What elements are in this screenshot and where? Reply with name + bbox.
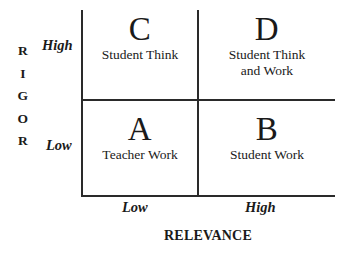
quadrant-a-letter: A — [128, 112, 152, 146]
rigor-relevance-framework-figure: R I G O R High Low C Student Think D Stu… — [0, 0, 350, 254]
quadrant-c: C Student Think — [84, 12, 196, 63]
quadrant-c-letter: C — [129, 12, 152, 46]
rigor-letter-3: G — [12, 85, 34, 108]
quadrant-b-letter: B — [256, 112, 279, 146]
x-axis-tick-low: Low — [122, 199, 148, 215]
horizontal-divider-line — [81, 99, 335, 101]
rigor-letter-5: R — [12, 130, 34, 153]
rigor-letter-2: I — [12, 63, 34, 86]
quadrant-d-description: Student Thinkand Work — [229, 47, 306, 78]
y-axis-title-rigor: R I G O R — [12, 40, 34, 153]
quadrant-a: A Teacher Work — [84, 112, 196, 163]
quadrant-d-letter: D — [255, 12, 279, 46]
rigor-letter-1: R — [12, 40, 34, 63]
y-axis-tick-high: High — [42, 37, 73, 53]
quadrant-d: D Student Thinkand Work — [200, 12, 334, 78]
x-axis-line — [81, 195, 335, 197]
x-axis-tick-high: High — [245, 199, 276, 215]
quadrant-a-description: Teacher Work — [102, 147, 177, 163]
rigor-letter-4: O — [12, 108, 34, 131]
quadrant-b: B Student Work — [200, 112, 334, 163]
quadrant-c-description: Student Think — [102, 47, 179, 63]
y-axis-tick-low: Low — [46, 137, 72, 153]
quadrant-b-description: Student Work — [230, 147, 304, 163]
x-axis-title-relevance: RELEVANCE — [81, 228, 335, 244]
